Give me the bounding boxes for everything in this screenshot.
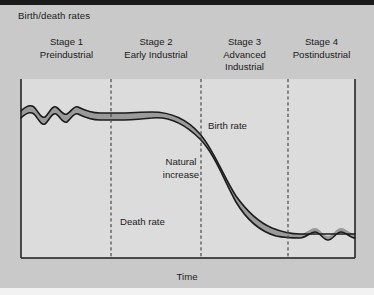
natural-increase-line-1: Natural	[166, 156, 197, 167]
natural-increase-line-2: increase	[163, 169, 199, 180]
demographic-transition-figure: Birth/death rates Stage 1 Preindustrial …	[0, 0, 374, 295]
bottom-white-strip	[0, 288, 374, 295]
death-rate-label: Death rate	[120, 216, 165, 229]
plot-area	[0, 0, 374, 295]
natural-increase-label: Natural increase	[148, 156, 214, 181]
x-axis-title: Time	[0, 271, 374, 282]
birth-rate-label: Birth rate	[208, 120, 247, 133]
